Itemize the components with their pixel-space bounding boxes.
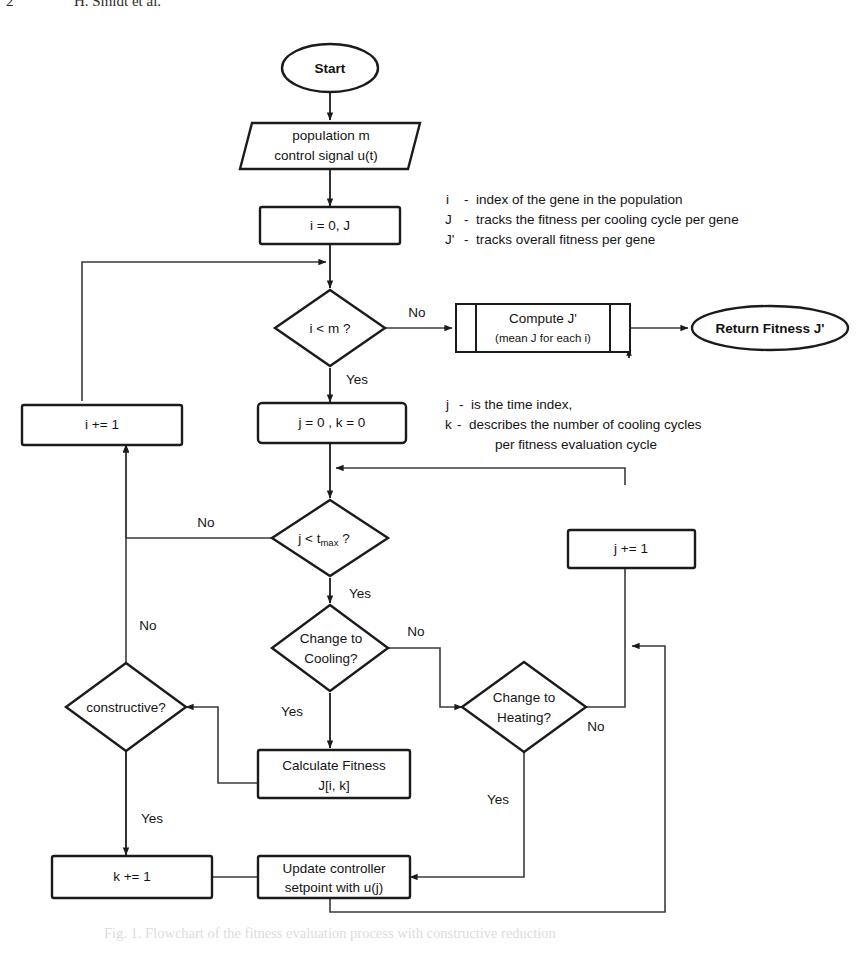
legend2-dash-0: - [459,397,464,412]
figure-caption: Fig. 1. Flowchart of the fitness evaluat… [104,925,856,942]
edge-label-change-cool-no: No [407,624,424,639]
init-i-label: i = 0, J [310,218,350,233]
legend2-dash-1: - [457,417,462,432]
edge-change-cool-no-to-change-heat [388,648,462,707]
node-constructive[interactable]: constructive? [66,663,186,751]
calculate-fitness-label-line1: Calculate Fitness [282,758,386,773]
change-heating-diamond-shape [462,662,586,752]
legend2-symbol-1: k [445,417,452,432]
edge-label-change-heat-yes: Yes [487,792,509,807]
node-check-j[interactable]: j < tmax ? [272,500,388,576]
edge-inc-k-to-update-ctrl [212,872,262,877]
legend1-symbol-1: J [445,212,452,227]
node-inc-i[interactable]: i += 1 [22,405,182,445]
edge-label-change-cool-yes: Yes [281,704,303,719]
legend1-dash-0: - [464,192,469,207]
update-controller-label-line2: setpoint with u(j) [285,880,383,895]
inputs-label-line2: control signal u(t) [274,148,378,163]
node-change-heating[interactable]: Change to Heating? [462,662,586,752]
edge-label-check-i-no: No [408,305,425,320]
legend1-text-1: tracks the fitness per cooling cycle per… [476,212,739,227]
node-compute-jprime[interactable]: Compute J' (mean J for each i) [456,304,630,352]
edge-label-constructive-yes: Yes [141,811,163,826]
node-init-jk[interactable]: j = 0 , k = 0 [258,403,406,443]
change-heating-label-line2: Heating? [497,710,551,725]
node-inc-k[interactable]: k += 1 [52,856,212,898]
legend-group-2: j - is the time index, k - describes the… [445,397,702,452]
legend2-text-0: is the time index, [471,397,572,412]
legend1-text-2: tracks overall fitness per gene [476,232,655,247]
edge-labels: No Yes No Yes No Yes No Yes No Yes [139,305,604,826]
node-start[interactable]: Start [282,44,378,92]
change-heating-label-line1: Change to [493,690,555,705]
legend-group-1: i - index of the gene in the population … [445,192,739,247]
inputs-label-line1: population m [292,128,369,143]
constructive-label: constructive? [86,700,166,715]
node-return-fitness[interactable]: Return Fitness J' [692,306,848,350]
node-inc-j[interactable]: j += 1 [568,530,695,568]
compute-jprime-label-line1: Compute J' [509,311,577,326]
edge-calc-fitness-to-constructive [186,707,261,783]
node-change-cooling[interactable]: Change to Cooling? [272,605,388,691]
return-fitness-label: Return Fitness J' [716,321,825,336]
inc-j-label: j += 1 [613,541,648,556]
change-cooling-label-line1: Change to [300,631,362,646]
edge-label-check-j-yes: Yes [349,586,371,601]
legend2-text-2: per fitness evaluation cycle [495,437,657,452]
figure-page: 2 H. Smidt et al. [0,0,860,953]
init-jk-label: j = 0 , k = 0 [298,415,366,430]
start-label: Start [315,61,346,76]
change-cooling-diamond-shape [272,605,388,691]
edge-label-check-j-no: No [197,515,214,530]
compute-jprime-label-line2: (mean J for each i) [495,332,591,344]
legend1-symbol-0: i [446,192,449,207]
flowchart-canvas: Start population m control signal u(t) i… [0,0,860,953]
node-init-i[interactable]: i = 0, J [260,207,400,244]
legend2-text-1: describes the number of cooling cycles [469,417,702,432]
legend1-dash-2: - [464,232,469,247]
inc-k-label: k += 1 [113,869,151,884]
inc-i-label: i += 1 [85,417,119,432]
edge-change-heat-yes-to-update-ctrl [410,752,524,877]
legend1-symbol-2: J' [445,232,454,247]
edge-label-change-heat-no: No [587,719,604,734]
node-calculate-fitness[interactable]: Calculate Fitness J[i, k] [258,750,410,798]
node-inputs[interactable]: population m control signal u(t) [240,123,420,169]
change-cooling-label-line2: Cooling? [304,651,357,666]
legend1-dash-1: - [464,212,469,227]
legend1-text-0: index of the gene in the population [476,192,682,207]
legend2-symbol-0: j [445,397,449,412]
calculate-fitness-label-line2: J[i, k] [318,778,350,793]
node-update-controller[interactable]: Update controller setpoint with u(j) [258,856,410,898]
check-i-label: i < m ? [310,321,351,336]
edge-label-constructive-no: No [139,618,156,633]
edge-label-check-i-yes: Yes [346,372,368,387]
node-check-i[interactable]: i < m ? [275,290,385,366]
update-controller-label-line1: Update controller [283,861,386,876]
edge-inc-j-to-check-j [336,468,625,485]
